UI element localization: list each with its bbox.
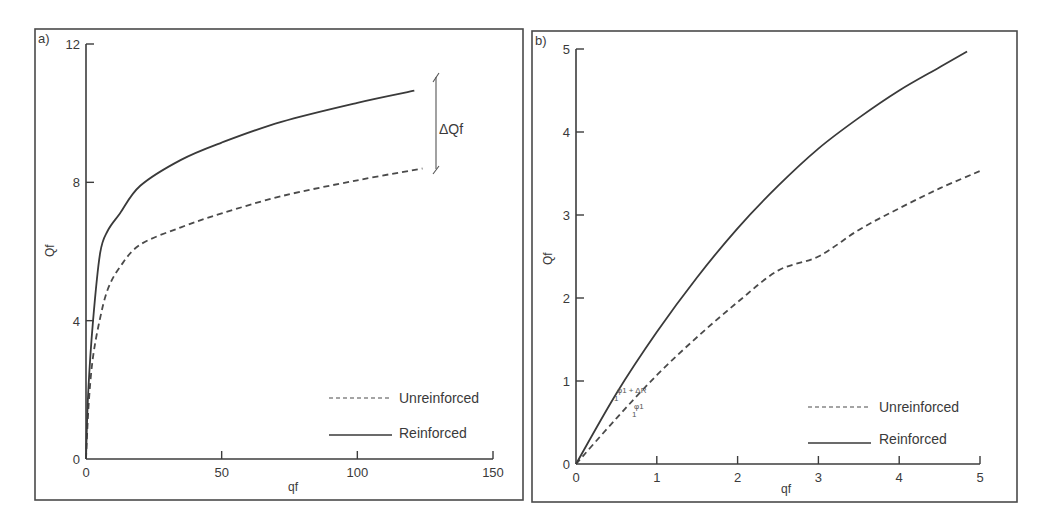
x-tick-label: 5 (976, 470, 983, 485)
x-tick-label: 150 (482, 465, 504, 480)
y-tick-label: 8 (73, 175, 80, 190)
panel-b-x-axis-label: qf (781, 482, 792, 496)
slope-annotation-reinforced: φ1 + ΔR 1 (614, 386, 647, 403)
panel-a-label: a) (38, 31, 50, 46)
series-unreinforced-line (576, 171, 980, 464)
y-tick-label: 0 (73, 452, 80, 467)
x-tick-label: 50 (214, 465, 228, 480)
slope-reinforced-denominator: 1 (614, 394, 619, 403)
x-tick-label: 0 (572, 470, 579, 485)
y-tick-label: 3 (563, 208, 570, 223)
panel-b: b) 012345012345 qf Qf φ1 + ΔR 1 φ1 1 Unr… (532, 31, 1017, 502)
x-tick-label: 100 (346, 465, 368, 480)
panel-b-axes: 012345012345 (563, 42, 984, 485)
panel-b-y-axis-label: Qf (541, 252, 555, 265)
y-tick-label: 1 (563, 374, 570, 389)
legend-unreinforced-label: Unreinforced (399, 390, 479, 406)
panel-b-label: b) (535, 33, 547, 48)
y-tick-label: 2 (563, 291, 570, 306)
x-tick-label: 4 (896, 470, 903, 485)
x-tick-label: 3 (815, 470, 822, 485)
panel-a-series (86, 91, 422, 459)
slope-annotation-unreinforced: φ1 1 (632, 402, 644, 419)
panel-a-legend: Unreinforced Reinforced (329, 390, 479, 441)
y-tick-label: 4 (73, 314, 80, 329)
panel-a-x-axis-label: qf (288, 480, 299, 494)
x-tick-label: 1 (653, 470, 660, 485)
delta-qf-bracket: ΔQf (433, 73, 463, 174)
legend-reinforced-label: Reinforced (399, 425, 467, 441)
series-reinforced-line (86, 91, 414, 459)
panel-a-axes: 05010015004812 (66, 37, 504, 480)
series-unreinforced-line (86, 169, 422, 460)
x-tick-label: 0 (82, 465, 89, 480)
delta-qf-label: ΔQf (439, 121, 463, 137)
panel-a: a) 05010015004812 qf Qf ΔQf Unreinforced… (35, 29, 523, 500)
y-tick-label: 0 (563, 457, 570, 472)
slope-unreinforced-denominator: 1 (632, 410, 637, 419)
figure: a) 05010015004812 qf Qf ΔQf Unreinforced… (0, 0, 1042, 532)
panel-a-y-axis-label: Qf (43, 244, 57, 257)
y-tick-label: 12 (66, 37, 80, 52)
legend-unreinforced-label: Unreinforced (879, 399, 959, 415)
y-tick-label: 5 (563, 42, 570, 57)
slope-reinforced-numerator: φ1 + ΔR (617, 386, 647, 395)
y-tick-label: 4 (563, 125, 570, 140)
legend-reinforced-label: Reinforced (879, 431, 947, 447)
x-tick-label: 2 (734, 470, 741, 485)
panel-b-legend: Unreinforced Reinforced (808, 399, 959, 447)
